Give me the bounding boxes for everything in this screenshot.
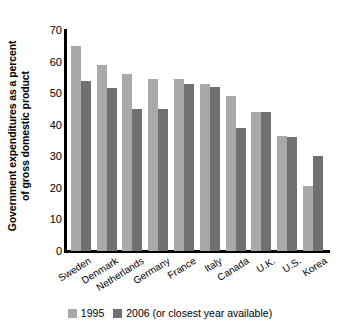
bar-1995 — [97, 65, 107, 251]
bar-group — [249, 30, 275, 251]
y-tick-label: 40 — [38, 119, 62, 130]
bar-group — [120, 30, 146, 251]
y-tick-label: 0 — [38, 246, 62, 257]
y-axis-title-line-1: Government expenditures as a percent — [6, 41, 18, 232]
y-tick-label: 10 — [38, 214, 62, 225]
bar-chart: Government expenditures as a percent of … — [0, 0, 340, 335]
bar-2006 — [261, 112, 271, 251]
y-tick-label: 70 — [38, 25, 62, 36]
bar-group — [300, 30, 326, 251]
bar-1995 — [122, 74, 132, 251]
bar-2006 — [287, 137, 297, 251]
bar-2006 — [236, 128, 246, 251]
bar-group — [171, 30, 197, 251]
bar-group — [274, 30, 300, 251]
bar-group — [145, 30, 171, 251]
legend-swatch-icon — [113, 309, 122, 318]
bar-1995 — [174, 79, 184, 251]
bar-1995 — [303, 186, 313, 251]
bar-group — [68, 30, 94, 251]
bar-group — [197, 30, 223, 251]
x-tick-label: U.S. — [281, 255, 303, 275]
plot-area — [66, 30, 328, 251]
bar-2006 — [158, 109, 168, 251]
y-axis-title-line-2: of gross domestic product — [19, 41, 32, 232]
bar-1995 — [148, 79, 158, 251]
bar-group — [94, 30, 120, 251]
x-tick-label: France — [166, 255, 198, 281]
x-tick-label: U.K. — [254, 255, 276, 275]
bar-2006 — [184, 84, 194, 251]
bar-1995 — [200, 84, 210, 251]
bar-2006 — [132, 109, 142, 251]
legend-label: 1995 — [81, 308, 104, 319]
chart-legend: 1995 2006 (or closest year available) — [0, 308, 340, 319]
bar-2006 — [313, 156, 323, 251]
bar-1995 — [226, 96, 236, 251]
legend-item-2006: 2006 (or closest year available) — [113, 308, 272, 319]
bar-1995 — [251, 112, 261, 251]
bar-2006 — [107, 88, 117, 251]
legend-label: 2006 (or closest year available) — [126, 308, 272, 319]
bar-groups — [66, 30, 328, 251]
y-tick-label: 30 — [38, 151, 62, 162]
legend-swatch-icon — [68, 309, 77, 318]
x-axis-labels: SwedenDenmarkNetherlandsGermanyFranceIta… — [66, 253, 328, 299]
bar-2006 — [81, 81, 91, 251]
bar-1995 — [71, 46, 81, 251]
legend-item-1995: 1995 — [68, 308, 104, 319]
y-tick-label: 50 — [38, 88, 62, 99]
y-tick-label: 60 — [38, 56, 62, 67]
y-tick-label: 20 — [38, 182, 62, 193]
x-tick-label: Korea — [301, 255, 329, 278]
bar-1995 — [277, 136, 287, 251]
bar-group — [223, 30, 249, 251]
y-axis-title: Government expenditures as a percent of … — [2, 18, 36, 254]
y-axis-ticks: 70 60 50 40 30 20 10 0 — [34, 30, 62, 251]
bar-2006 — [210, 87, 220, 251]
